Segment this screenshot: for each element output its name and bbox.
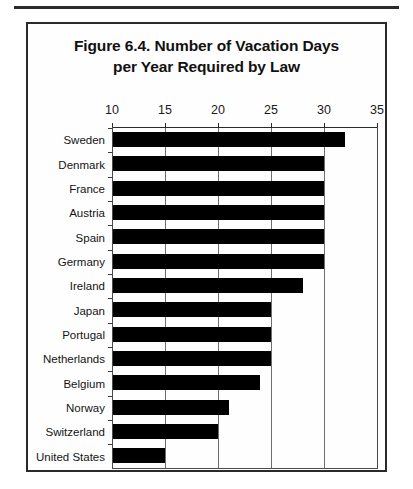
bar-row [112,250,377,274]
bar-row [112,128,377,152]
bar [112,205,324,220]
x-axis-tick-labels: 101520253035 [112,103,377,121]
y-tick-mark [108,128,113,129]
plot-area [112,128,377,469]
y-tick-mark [108,298,113,299]
bar [112,375,260,390]
category-label: Ireland [28,274,112,298]
category-label: United States [28,444,112,468]
category-label: Portugal [28,323,112,347]
bar [112,448,165,463]
bar [112,132,345,147]
category-label: Belgium [28,371,112,395]
category-label: Austria [28,201,112,225]
bar-rows [112,128,377,469]
bar-row [112,225,377,249]
bar [112,181,324,196]
bar-row [112,177,377,201]
bar [112,278,303,293]
page-top-rule [14,6,399,9]
bar [112,400,229,415]
bar-row [112,420,377,444]
x-tick-label-30: 30 [317,103,331,117]
y-axis-category-labels: SwedenDenmarkFranceAustriaSpainGermanyIr… [28,128,112,469]
bar-row [112,152,377,176]
bar [112,351,271,366]
category-label: Germany [28,250,112,274]
figure-title-line-2: per Year Required by Law [28,57,385,78]
figure-container: Figure 6.4. Number of Vacation Days per … [26,22,387,472]
category-label: Japan [28,298,112,322]
category-label: Sweden [28,128,112,152]
bar-row [112,201,377,225]
category-label: Spain [28,225,112,249]
x-tick-label-20: 20 [211,103,225,117]
y-tick-mark [108,225,113,226]
bar-row [112,274,377,298]
bar [112,327,271,342]
bar [112,156,324,171]
bar-row [112,444,377,468]
y-tick-mark [108,250,113,251]
bar [112,424,218,439]
y-tick-mark [108,323,113,324]
x-tick-label-15: 15 [158,103,172,117]
y-tick-mark [108,396,113,397]
y-tick-mark [108,420,113,421]
bar-row [112,347,377,371]
y-tick-mark [108,177,113,178]
category-label: Norway [28,396,112,420]
bar [112,254,324,269]
x-tick-label-25: 25 [264,103,278,117]
figure-title: Figure 6.4. Number of Vacation Days per … [28,36,385,77]
bar [112,229,324,244]
figure-title-line-1: Figure 6.4. Number of Vacation Days [74,37,339,54]
x-tick-label-35: 35 [370,103,384,117]
category-label: Denmark [28,152,112,176]
y-tick-mark [108,201,113,202]
y-tick-mark [108,347,113,348]
y-tick-mark [108,152,113,153]
y-tick-mark [108,274,113,275]
bar-row [112,323,377,347]
category-label: Netherlands [28,347,112,371]
category-label: France [28,177,112,201]
category-label: Switzerland [28,420,112,444]
y-tick-mark [108,371,113,372]
bar-row [112,371,377,395]
x-tick-label-10: 10 [105,103,119,117]
bar-row [112,396,377,420]
y-tick-mark [108,444,113,445]
gridline-35 [377,128,378,469]
bar [112,302,271,317]
bar-row [112,298,377,322]
